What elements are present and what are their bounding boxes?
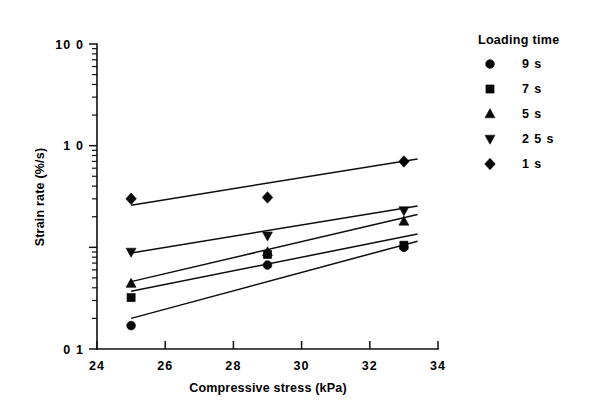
legend-item-9-s[interactable]: 9 s [486, 57, 542, 71]
y-tick-label: 10 0 [55, 38, 84, 52]
legend-marker-triangle-up [485, 109, 495, 118]
marker-triangle-down [399, 207, 409, 216]
legend-title: Loading time [478, 33, 559, 47]
legend-item-7-s[interactable]: 7 s [486, 82, 542, 96]
legend-item-label: 1 s [522, 157, 542, 171]
x-tick-label: 34 [430, 359, 446, 373]
marker-triangle-down [263, 232, 273, 241]
x-tick-label: 32 [362, 359, 378, 373]
series-1-s [126, 156, 409, 205]
marker-circle [127, 321, 136, 330]
x-tick-label: 26 [157, 359, 173, 373]
legend-item-label: 5 s [522, 107, 542, 121]
marker-diamond [126, 193, 137, 205]
y-axis-tick-labels: 0 11 010 0 [55, 38, 84, 357]
x-tick-label: 28 [225, 359, 241, 373]
legend-marker-diamond [485, 158, 496, 170]
legend-item-5-s[interactable]: 5 s [485, 107, 542, 121]
y-axis-ticks [89, 44, 97, 349]
regression-line [131, 215, 417, 282]
x-axis-title: Compressive stress (kPa) [189, 381, 347, 395]
x-axis-ticks [97, 341, 438, 349]
regression-lines [131, 159, 417, 318]
data-points [126, 156, 409, 330]
marker-circle [263, 261, 272, 270]
marker-square [127, 294, 135, 302]
legend-marker-square [486, 85, 494, 93]
scatter-plot: 0 11 010 0 242628303234 Compressive stre… [0, 0, 592, 420]
marker-diamond [399, 156, 410, 168]
y-tick-label: 0 1 [63, 343, 84, 357]
x-axis-tick-labels: 242628303234 [89, 359, 446, 373]
figure-container: 0 11 010 0 242628303234 Compressive stre… [0, 0, 592, 420]
legend-items: 9 s7 s5 s2 5 s1 s [485, 57, 555, 171]
regression-line [131, 241, 417, 318]
legend-marker-triangle-down [485, 135, 495, 144]
legend-marker-circle [486, 60, 495, 69]
regression-line [131, 234, 417, 291]
legend: Loading time 9 s7 s5 s2 5 s1 s [478, 33, 559, 171]
legend-item-2-5-s[interactable]: 2 5 s [485, 132, 554, 146]
regression-line [131, 206, 417, 253]
legend-item-1-s[interactable]: 1 s [485, 157, 542, 171]
y-tick-label: 1 0 [63, 139, 84, 153]
marker-triangle-up [126, 278, 136, 287]
regression-line [131, 159, 417, 205]
marker-square [400, 241, 408, 249]
x-tick-label: 24 [89, 359, 105, 373]
y-axis-title: Strain rate (%/s) [33, 148, 47, 247]
marker-diamond [262, 192, 273, 204]
legend-item-label: 2 5 s [522, 132, 554, 146]
x-tick-label: 30 [294, 359, 310, 373]
legend-item-label: 9 s [522, 57, 542, 71]
legend-item-label: 7 s [522, 82, 542, 96]
